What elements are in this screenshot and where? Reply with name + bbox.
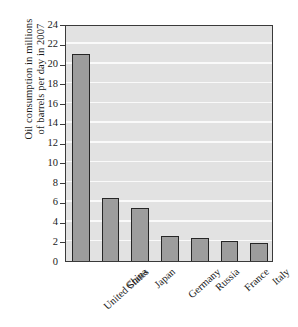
y-axis-tick-label: 20 — [36, 59, 58, 70]
bar — [161, 236, 179, 261]
x-axis-tick-label: France — [243, 266, 272, 293]
y-axis-tick-label: 4 — [36, 217, 58, 228]
bar-chart-figure: Oil consumption in millions of barrels p… — [0, 0, 298, 327]
y-axis-tick-label: 22 — [36, 39, 58, 50]
bar — [102, 198, 120, 261]
y-axis-tick-label: 6 — [36, 197, 58, 208]
y-axis-tick-label: 10 — [36, 158, 58, 169]
y-axis-tick-label: 2 — [36, 237, 58, 248]
y-axis-tick-labels: 024681012141618202224 — [34, 0, 58, 327]
y-axis-tick-label: 16 — [36, 99, 58, 110]
bar — [131, 208, 149, 261]
plot-area — [65, 25, 273, 262]
y-axis-tick-label: 18 — [36, 79, 58, 90]
y-axis-tick-label: 0 — [36, 257, 58, 268]
x-axis-tick-label: Italy — [270, 266, 292, 287]
bar — [250, 243, 268, 261]
y-axis-tick-label: 24 — [36, 20, 58, 31]
y-axis-tick-label: 8 — [36, 178, 58, 189]
y-axis-tick-label: 14 — [36, 118, 58, 129]
y-axis-tick-label: 12 — [36, 138, 58, 149]
x-axis-tick-label: Japan — [152, 266, 177, 290]
bar — [191, 238, 209, 261]
bar — [221, 241, 239, 261]
bar-series — [66, 26, 272, 261]
bar — [72, 54, 90, 261]
